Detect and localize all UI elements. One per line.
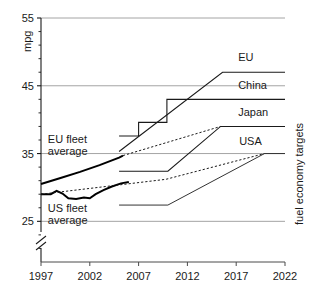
x-tick-label-1997: 1997 [29, 270, 53, 282]
series-line-usa [119, 154, 285, 206]
gridlines-group [41, 18, 285, 221]
series-label-japan: Japan [238, 106, 268, 118]
series-line-eu-fleet-average-projection [123, 126, 221, 155]
series-label-china: China [238, 79, 268, 91]
y-axis-title: mpg [21, 31, 33, 52]
x-tick-label-2007: 2007 [126, 270, 150, 282]
x-tick-label-2012: 2012 [175, 270, 199, 282]
y-tick-label-45: 45 [22, 80, 34, 92]
series-line-eu-fleet-average [41, 156, 123, 184]
x-tick-label-2002: 2002 [78, 270, 102, 282]
chart-canvas: EUChinaJapanUSA EU fleetaverageUS fleeta… [0, 0, 313, 300]
fuel-economy-chart: EUChinaJapanUSA EU fleetaverageUS fleeta… [0, 0, 313, 300]
y-tick-label-55: 55 [22, 12, 34, 24]
eu-fleet-average-annotation: EU fleetaverage [48, 133, 88, 157]
right-axis-title: fuel economy targets [293, 122, 305, 225]
series-line-us-fleet-average [41, 182, 129, 199]
axis-titles-group: mpgfuel economy targets [21, 31, 305, 225]
series-label-usa: USA [239, 135, 262, 147]
x-tick-label-2017: 2017 [224, 270, 248, 282]
x-tick-label-2022: 2022 [273, 270, 297, 282]
us-fleet-average-annotation: US fleetaverage [48, 202, 88, 226]
y-tick-label-35: 35 [22, 148, 34, 160]
y-tick-label-25: 25 [22, 215, 34, 227]
series-label-eu: EU [238, 51, 253, 63]
